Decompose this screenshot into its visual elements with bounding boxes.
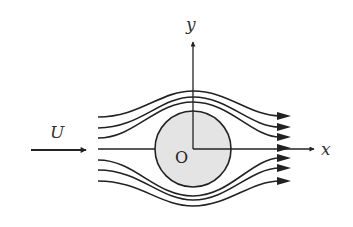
arrowhead-icon [277,123,291,131]
arrowhead-icon [277,164,291,172]
arrowhead-icon [277,112,291,120]
arrowhead-icon [277,144,291,152]
freestream-label: U [50,122,65,142]
arrowhead-icon [277,154,291,162]
arrowhead-icon [277,133,291,141]
flow-diagram: y x U O [0,0,353,227]
x-axis-label: x [321,139,331,159]
arrowhead-icon [277,177,291,185]
y-axis-label: y [185,14,196,34]
origin-label: O [175,148,188,167]
